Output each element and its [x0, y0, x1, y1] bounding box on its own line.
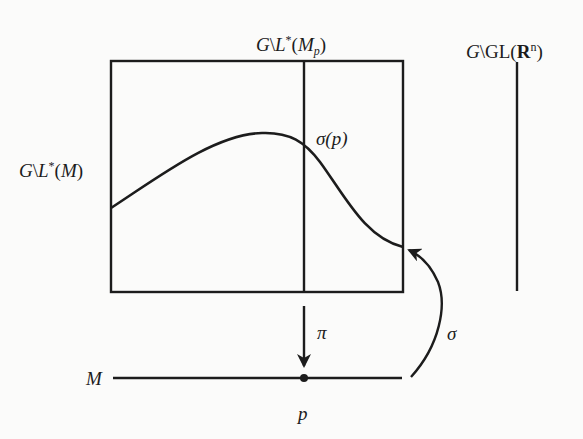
point-p-dot [300, 374, 308, 382]
diagram-canvas: G\L*(Mp) G\GL(Rn) G\L*(M) σ(p) π σ M p [0, 0, 583, 439]
label-G: G [466, 41, 480, 62]
frame-bundle-label: G\GL(Rn) [466, 41, 543, 61]
bundle-label: G\L*(M) [19, 160, 83, 180]
label-paren-close: ) [320, 34, 326, 55]
section-curve [111, 133, 403, 247]
section-label: σ [447, 324, 456, 343]
bundle-box [111, 61, 403, 292]
label-paren-close: ) [77, 160, 83, 181]
section-value-label: σ(p) [316, 129, 348, 148]
section-arrow [409, 250, 442, 377]
projection-label: π [317, 323, 327, 342]
label-M: M [298, 34, 314, 55]
label-L: L [275, 34, 286, 55]
label-M: M [61, 160, 77, 181]
point-p-label: p [298, 404, 308, 423]
base-manifold-label: M [86, 369, 102, 388]
label-G: G [19, 160, 33, 181]
label-G: G [256, 34, 270, 55]
fiber-label: G\L*(Mp) [256, 34, 326, 57]
label-R: R [517, 41, 531, 62]
label-GL: GL( [485, 41, 517, 62]
label-L: L [38, 160, 49, 181]
label-paren-close: ) [536, 41, 542, 62]
